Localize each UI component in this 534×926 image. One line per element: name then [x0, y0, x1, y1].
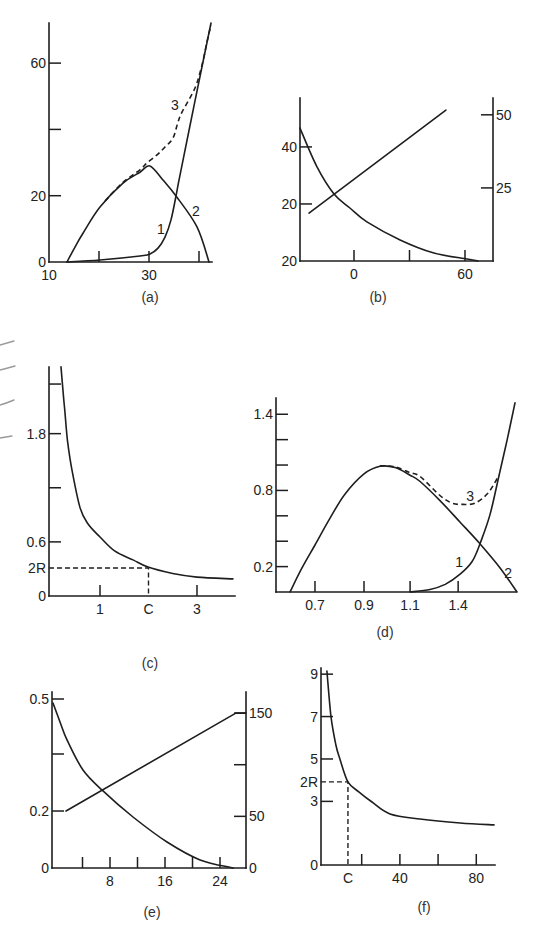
y-tick-label: 0.5 — [30, 691, 50, 707]
figure-canvas: 10300206012306020204025501C302R0.61.80.7… — [0, 0, 534, 926]
chart-panel-b: 0602020402550 — [281, 98, 511, 282]
curve-label: 1 — [157, 221, 165, 237]
data-series-curve — [327, 671, 494, 825]
y-tick-label: 5 — [310, 751, 318, 767]
figure-page: 10300206012306020204025501C302R0.61.80.7… — [0, 0, 534, 926]
data-series-increasing — [309, 110, 446, 213]
y-tick-label: 0.2 — [30, 803, 50, 819]
y-tick-label: 20 — [281, 196, 297, 212]
y-tick-label: 20 — [30, 188, 46, 204]
x-tick-label: C — [343, 870, 353, 886]
y-tick-label: 40 — [281, 139, 297, 155]
x-tick-label: 0 — [350, 266, 358, 282]
chart-panel-e: 8162400.20.5050150 — [30, 691, 273, 889]
y-tick-label: 2R — [300, 774, 318, 790]
data-series-increasing — [66, 713, 246, 811]
data-series-1 — [67, 23, 211, 262]
y-tick-label: 0 — [38, 588, 46, 604]
y-tick-label: 3 — [310, 793, 318, 809]
y-tick-label: 60 — [30, 55, 46, 71]
panel-caption-f: (f) — [417, 900, 430, 914]
scan-artifacts — [0, 341, 15, 438]
data-series-3 — [380, 466, 499, 505]
x-tick-label: 16 — [157, 873, 173, 889]
y-tick-label: 0 — [310, 857, 318, 873]
panel-caption-b: (b) — [369, 290, 386, 304]
x-tick-label: 60 — [457, 266, 473, 282]
chart-panel-d: 0.70.91.11.40.20.81.4312 — [254, 398, 517, 613]
x-tick-label: 0.7 — [305, 597, 325, 613]
scan-mark — [0, 341, 14, 345]
y-tick-label: 1.4 — [254, 406, 274, 422]
x-tick-label: 1.1 — [400, 597, 420, 613]
panel-caption-c: (c) — [142, 656, 158, 670]
x-tick-label: 1 — [96, 601, 104, 617]
y-tick-label: 0.2 — [254, 559, 274, 575]
chart-panel-c: 1C302R0.61.8 — [27, 367, 235, 617]
scan-mark — [0, 366, 15, 370]
x-tick-label: 40 — [392, 870, 408, 886]
y-right-tick-label: 150 — [249, 705, 273, 721]
scan-mark — [0, 400, 14, 405]
x-tick-label: 1.4 — [448, 597, 468, 613]
y-tick-label: 1.8 — [27, 426, 47, 442]
data-series-decreasing — [300, 128, 478, 261]
data-series-2 — [290, 466, 517, 592]
curve-label: 1 — [455, 554, 463, 570]
y-tick-label: 7 — [310, 709, 318, 725]
y-right-tick-label: 0 — [249, 860, 257, 876]
reference-dashed-line — [321, 782, 348, 865]
scan-mark — [0, 436, 12, 438]
x-tick-label: 3 — [193, 601, 201, 617]
curve-label: 2 — [192, 203, 200, 219]
x-tick-label: 24 — [212, 873, 228, 889]
data-series-curve — [61, 367, 233, 579]
curve-label: 2 — [504, 565, 512, 581]
x-tick-label: C — [143, 601, 153, 617]
data-series-decreasing — [53, 703, 233, 868]
y-tick-label: 0.6 — [27, 534, 47, 550]
x-tick-label: 80 — [468, 870, 484, 886]
panel-caption-e: (e) — [143, 905, 160, 919]
x-tick-label: 0.9 — [354, 597, 374, 613]
curve-label: 3 — [171, 97, 179, 113]
y-tick-label: 0 — [41, 860, 49, 876]
x-tick-label: 8 — [106, 873, 114, 889]
y-tick-label: 0.8 — [254, 482, 274, 498]
chart-panel-a: 103002060123 — [30, 23, 212, 283]
data-series-2 — [67, 166, 209, 262]
y-tick-label: 0 — [38, 254, 46, 270]
y-right-tick-label: 50 — [496, 107, 512, 123]
reference-dashed-line — [49, 568, 148, 596]
y-right-tick-label: 50 — [249, 808, 265, 824]
y-right-tick-label: 25 — [496, 180, 512, 196]
x-tick-label: 30 — [141, 267, 157, 283]
curve-label: 3 — [466, 488, 474, 504]
y-tick-label: 2R — [28, 560, 46, 576]
y-tick-label: 9 — [310, 666, 318, 682]
y-tick-label: 20 — [281, 253, 297, 269]
chart-panel-f: C4080032R579 — [300, 666, 495, 886]
panel-caption-d: (d) — [376, 625, 393, 639]
panel-caption-a: (a) — [141, 290, 158, 304]
